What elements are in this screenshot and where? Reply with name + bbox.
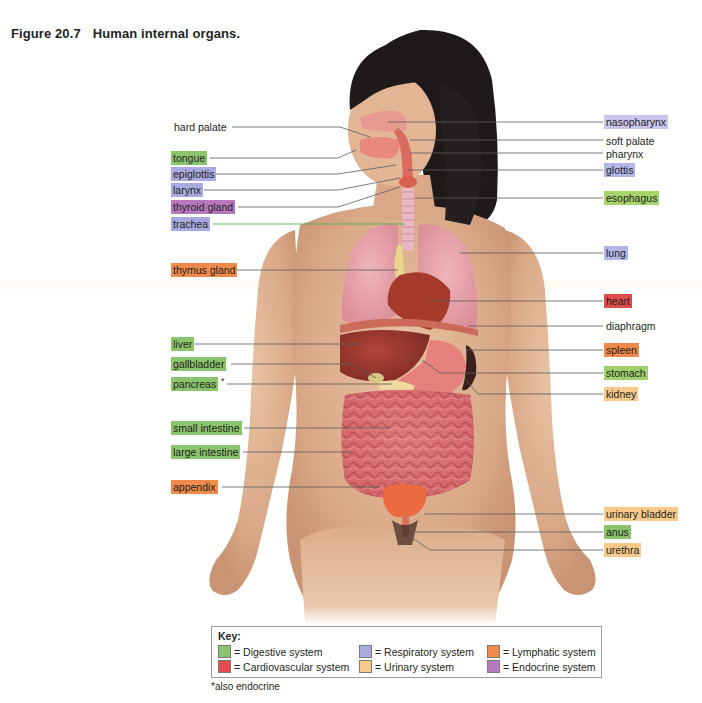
key-title: Key: [218,630,241,642]
lymphatic-swatch [487,645,500,658]
label-hard-palate: hard palate [172,120,229,134]
key-item-endocrine: = Endocrine system [487,660,596,673]
footnote: *also endocrine [211,681,280,692]
key-label: = Cardiovascular system [234,661,349,673]
label-glottis: glottis [604,163,635,177]
label-diaphragm: diaphragm [604,319,658,333]
label-stomach: stomach [604,366,648,380]
key-label: = Endocrine system [503,661,596,673]
label-kidney: kidney [604,387,638,401]
key-item-respiratory: = Respiratory system [359,645,474,658]
label-esophagus: esophagus [604,191,659,205]
key-label: = Urinary system [375,661,454,673]
urinary-swatch [359,660,372,673]
label-pharynx: pharynx [604,147,645,161]
label-spleen: spleen [604,343,639,357]
key-item-cardiovascular: = Cardiovascular system [218,660,349,673]
label-heart: heart [604,294,632,308]
key-label: = Digestive system [234,646,322,658]
endocrine-swatch [487,660,500,673]
label-lung: lung [604,246,628,260]
label-small-intestine: small intestine [171,421,242,435]
label-appendix: appendix [171,480,218,494]
label-soft-palate: soft palate [604,134,656,148]
key-item-lymphatic: = Lymphatic system [487,645,596,658]
color-key: Key: = Digestive system = Cardiovascular… [211,626,602,678]
label-liver: liver [171,337,194,351]
label-thyroid-gland: thyroid gland [171,200,235,214]
key-label: = Lymphatic system [503,646,596,658]
digestive-swatch [218,645,231,658]
label-urinary-bladder: urinary bladder [604,507,678,521]
key-item-digestive: = Digestive system [218,645,322,658]
label-large-intestine: large intestine [171,445,240,459]
label-pancreas: pancreas [171,377,218,391]
label-epiglottis: epiglottis [171,167,216,181]
label-thymus-gland: thymus gland [171,263,237,277]
label-larynx: larynx [171,183,203,197]
label-nasopharynx: nasopharynx [604,115,668,129]
anatomy-illustration [0,0,702,703]
label-urethra: urethra [604,543,641,557]
pancreas-asterisk: * [219,374,227,388]
label-trachea: trachea [171,217,210,231]
cardiovascular-swatch [218,660,231,673]
label-gallbladder: gallbladder [171,357,226,371]
label-tongue: tongue [171,151,207,165]
respiratory-swatch [359,645,372,658]
key-label: = Respiratory system [375,646,474,658]
key-item-urinary: = Urinary system [359,660,454,673]
label-anus: anus [604,525,631,539]
